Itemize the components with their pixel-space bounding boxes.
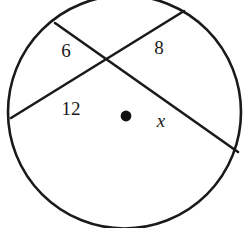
center-dot — [121, 111, 132, 122]
segment-label-6: 6 — [61, 41, 71, 60]
segment-label-12: 12 — [62, 99, 81, 118]
segment-label-x: x — [157, 111, 165, 130]
geometry-diagram: 6 8 12 x — [0, 0, 248, 228]
geometry-canvas — [0, 0, 248, 228]
segment-label-8: 8 — [154, 38, 164, 57]
chord-b-line — [11, 11, 184, 118]
chord-a-line — [55, 23, 238, 152]
